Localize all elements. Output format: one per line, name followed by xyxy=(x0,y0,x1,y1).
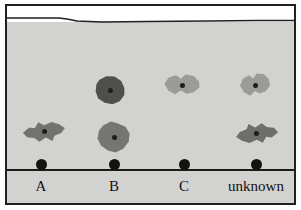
lane-label-unknown: unknown xyxy=(228,178,284,194)
spot-unknown-1 xyxy=(237,69,273,102)
tlc-plate-figure: ABCunknown xyxy=(0,0,301,210)
lane-label-c: C xyxy=(179,178,189,194)
spot-a-1-center-mark xyxy=(42,129,47,134)
lane-label-b: B xyxy=(109,178,119,194)
lane-label-a: A xyxy=(36,178,47,194)
tlc-plate-border: ABCunknown xyxy=(5,4,296,205)
spot-b-1-center-mark xyxy=(108,88,113,93)
silica-surface xyxy=(7,22,294,203)
origin-dot-b xyxy=(109,159,120,170)
spot-b-1 xyxy=(93,73,128,106)
origin-dot-a xyxy=(36,159,47,170)
spot-c-1-center-mark xyxy=(180,83,185,88)
origin-dot-unknown xyxy=(251,159,262,170)
origin-dot-c xyxy=(179,159,190,170)
origin-baseline xyxy=(7,169,294,171)
spot-c-1 xyxy=(161,70,202,100)
spot-b-2-center-mark xyxy=(112,135,117,140)
spot-b-2 xyxy=(95,119,133,155)
spot-unknown-1-center-mark xyxy=(253,83,258,88)
